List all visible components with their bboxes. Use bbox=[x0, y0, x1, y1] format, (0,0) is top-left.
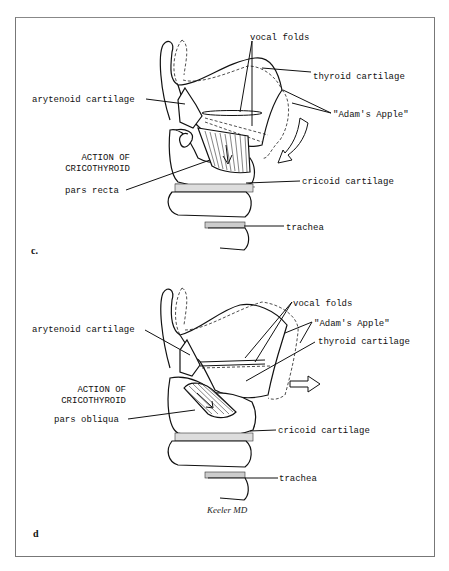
label-pars-recta: pars recta bbox=[65, 186, 120, 196]
artist-signature: Keeler MD bbox=[206, 505, 248, 515]
label-action-of-d: ACTION OF bbox=[77, 385, 126, 395]
label-cricothyroid-c: CRICOTHYROID bbox=[65, 164, 130, 174]
label-vocal-folds-d: vocal folds bbox=[293, 299, 352, 309]
label-thyroid-cartilage-d: thyroid cartilage bbox=[318, 337, 410, 347]
right-arrow-icon bbox=[290, 376, 320, 392]
label-cricoid-cartilage-d: cricoid cartilage bbox=[278, 426, 370, 436]
label-cricothyroid-d: CRICOTHYROID bbox=[61, 396, 126, 406]
curved-down-arrow-icon bbox=[278, 118, 308, 163]
label-cricoid-cartilage-c: cricoid cartilage bbox=[302, 177, 394, 187]
label-adams-apple-c: "Adam's Apple" bbox=[333, 110, 409, 120]
panel-label-d: d bbox=[33, 528, 39, 539]
panel-d-drawing bbox=[128, 288, 320, 500]
label-action-of-c: ACTION OF bbox=[81, 153, 130, 163]
label-trachea-d: trachea bbox=[279, 474, 317, 484]
label-pars-obliqua: pars obliqua bbox=[54, 415, 119, 425]
larynx-diagram: vocal folds thyroid cartilage arytenoid … bbox=[0, 0, 449, 571]
label-vocal-folds-c: vocal folds bbox=[250, 33, 309, 43]
label-trachea-c: trachea bbox=[286, 223, 324, 233]
panel-label-c: c. bbox=[31, 245, 38, 256]
label-thyroid-cartilage-c: thyroid cartilage bbox=[313, 72, 405, 82]
label-arytenoid-cartilage-c: arytenoid cartilage bbox=[32, 95, 135, 105]
label-adams-apple-d: "Adam's Apple" bbox=[314, 319, 390, 329]
panel-c-drawing bbox=[126, 40, 331, 250]
label-arytenoid-cartilage-d: arytenoid cartilage bbox=[32, 325, 135, 335]
